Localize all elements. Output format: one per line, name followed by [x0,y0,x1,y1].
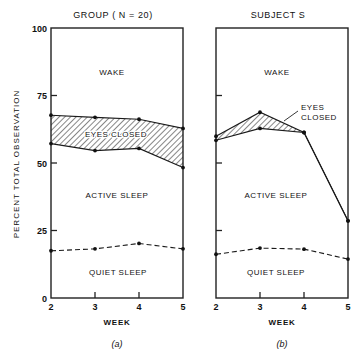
region-label-active-sleep: ACTIVE SLEEP [245,191,308,200]
eyes-closed-leader-line [284,111,298,121]
data-point [93,115,97,119]
y-tick-label: 50 [37,159,47,169]
region-label-eyes-closed-line1: EYES [301,103,324,112]
y-axis-label: PERCENT TOTAL OBSERVATION [12,90,21,239]
x-tick-label: 4 [136,302,141,312]
y-tick-label: 75 [37,91,47,101]
data-point [49,113,53,117]
x-tick-label: 5 [345,302,350,312]
data-point [346,219,350,223]
region-label-active-sleep: ACTIVE SLEEP [86,191,149,200]
x-axis-label: WEEK [103,318,130,327]
panel-label: (b) [277,339,288,349]
region-label-quiet-sleep: QUIET SLEEP [247,268,305,277]
y-tick-label: 25 [37,226,47,236]
x-axis-label: WEEK [268,318,295,327]
data-point [346,257,350,261]
data-point [181,247,185,251]
x-tick-label: 3 [92,302,97,312]
x-tick-label: 3 [257,302,262,312]
data-point [302,247,306,251]
x-tick-label: 2 [213,302,218,312]
data-point [214,138,218,142]
region-label-quiet-sleep: QUIET SLEEP [89,268,147,277]
data-point [258,127,262,131]
data-point [137,147,141,151]
y-tick-label: 0 [42,294,47,304]
data-point [214,134,218,138]
panel-label: (a) [112,339,123,349]
region-label-eyes-closed-line2: CLOSED [301,113,337,122]
region-label-wake: WAKE [264,68,289,77]
panel-group: GROUP ( N = 20) 0255075100 2345 WAKE EYE… [32,10,186,349]
eyes-closed-hatched-band [216,112,348,221]
x-tick-label: 4 [301,302,306,312]
data-point [93,247,97,251]
panel-title: GROUP ( N = 20) [73,10,153,20]
series-line-1 [216,128,348,220]
x-tick-label: 2 [48,302,53,312]
data-point [258,110,262,114]
eyes-closed-hatched-band [51,115,183,167]
sleep-observation-figure: PERCENT TOTAL OBSERVATION GROUP ( N = 20… [0,0,363,358]
data-point [181,166,185,170]
x-tick-label: 5 [180,302,185,312]
panel-group: SUBJECT S 2345 WAKE EYES CLOSED ACTIVE S… [213,10,350,349]
data-point [214,252,218,256]
data-point [137,117,141,121]
panel-title: SUBJECT S [251,10,306,20]
data-point [302,131,306,135]
series-line-2 [51,244,183,251]
data-point [93,149,97,153]
region-label-wake: WAKE [99,68,124,77]
data-point [49,249,53,253]
series-line-2 [216,248,348,259]
data-point [258,246,262,250]
region-label-eyes-closed: EYES CLOSED [85,130,147,139]
data-point [181,127,185,131]
y-tick-label: 100 [32,24,47,34]
data-point [137,242,141,246]
data-point [49,142,53,146]
